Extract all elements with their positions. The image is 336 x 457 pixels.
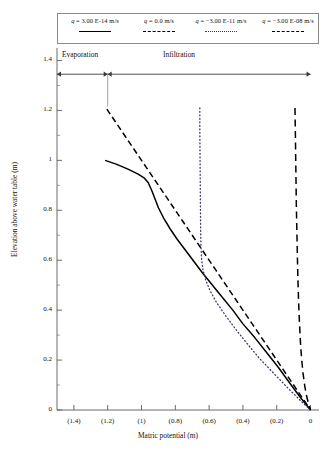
y-axis-title: Elevation above water table (m): [10, 110, 19, 310]
x-tick-label-1: (1.2): [93, 417, 123, 425]
infiltration-arrow-head-start: [108, 72, 112, 77]
infiltration-arrow-head-end: [307, 72, 311, 77]
x-tick-label-2: (1): [127, 417, 157, 425]
x-tick-label-5: (0.4): [228, 417, 258, 425]
plot-area: [0, 0, 336, 457]
y-tick-label-5: 1: [26, 155, 52, 163]
evaporation-arrow-head-start: [57, 72, 61, 77]
x-tick-label-0: (1.4): [59, 417, 89, 425]
y-tick-label-4: 0.8: [26, 205, 52, 213]
y-tick-label-6: 1.2: [26, 105, 52, 113]
y-tick-label-0: 0: [26, 405, 52, 413]
evaporation-arrow-head-end: [104, 72, 108, 77]
series-line-3: [295, 108, 311, 410]
y-tick-label-7: 1.4: [26, 55, 52, 63]
x-tick-label-4: (0.6): [194, 417, 224, 425]
x-tick-label-6: (0.2): [262, 417, 292, 425]
chart-figure: q = 3.00 E-14 m/sq = 0.0 m/sq = −3.00 E-…: [0, 0, 336, 457]
x-axis-title: Matric potential (m): [0, 431, 336, 440]
x-tick-label-3: (0.8): [160, 417, 190, 425]
series-line-2: [200, 108, 311, 410]
y-tick-label-3: 0.6: [26, 255, 52, 263]
y-tick-label-1: 0.2: [26, 355, 52, 363]
x-tick-label-7: 0: [296, 417, 326, 425]
series-line-1: [107, 109, 311, 410]
y-tick-label-2: 0.4: [26, 305, 52, 313]
